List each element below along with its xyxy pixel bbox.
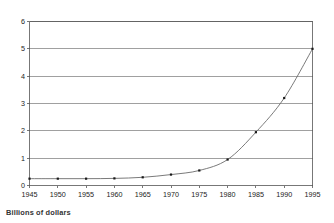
data-point-1970 <box>170 173 172 175</box>
data-point-1980 <box>227 158 229 160</box>
x-tick-label-1990: 1990 <box>276 190 292 199</box>
x-tick-label-1960: 1960 <box>106 190 122 199</box>
x-tick-label-1950: 1950 <box>50 190 66 199</box>
x-tick-label-1995: 1995 <box>305 190 321 199</box>
data-point-1950 <box>57 178 59 180</box>
data-point-1995 <box>311 48 313 50</box>
x-tick-label-1985: 1985 <box>248 190 264 199</box>
x-tick-label-1980: 1980 <box>220 190 236 199</box>
line-chart: 0123456 19451950195519601965197019751980… <box>0 0 334 223</box>
data-point-1975 <box>198 169 200 171</box>
data-point-markers <box>28 48 313 180</box>
series-line-billions-of-dollars <box>30 49 313 179</box>
x-tick-label-1945: 1945 <box>22 190 38 199</box>
y-tick-labels: 0123456 <box>21 17 25 190</box>
x-tick-label-1955: 1955 <box>78 190 94 199</box>
data-point-1985 <box>255 131 257 133</box>
y-tick-label-4: 4 <box>21 72 25 81</box>
y-tick-label-2: 2 <box>21 126 25 135</box>
grid-lines <box>30 22 313 159</box>
x-tick-label-1975: 1975 <box>191 190 207 199</box>
chart-container: 0123456 19451950195519601965197019751980… <box>0 0 334 223</box>
x-tick-labels: 1945195019551960196519701975198019851990… <box>22 190 321 199</box>
data-point-1965 <box>142 176 144 178</box>
chart-caption: Billions of dollars <box>6 208 71 217</box>
y-tick-label-3: 3 <box>21 99 25 108</box>
y-tick-label-5: 5 <box>21 44 25 53</box>
data-point-1990 <box>283 97 285 99</box>
data-point-1960 <box>113 177 115 179</box>
data-series-line <box>30 49 313 179</box>
data-point-1945 <box>28 178 30 180</box>
y-tick-label-1: 1 <box>21 154 25 163</box>
y-tick-label-6: 6 <box>21 17 25 26</box>
data-point-1955 <box>85 178 87 180</box>
x-tick-label-1970: 1970 <box>163 190 179 199</box>
x-tick-label-1965: 1965 <box>135 190 151 199</box>
